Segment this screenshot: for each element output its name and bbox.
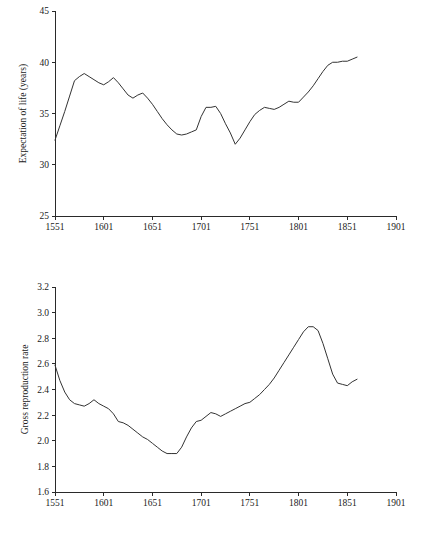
- x-tick-label: 1551: [46, 498, 65, 508]
- x-tick-label: 1801: [289, 498, 308, 508]
- x-tick-label: 1651: [143, 498, 162, 508]
- x-tick-label: 1651: [143, 222, 162, 232]
- x-tick-label: 1701: [192, 222, 211, 232]
- x-tick-label: 1901: [387, 498, 406, 508]
- y-tick-label: 1.6: [37, 487, 49, 497]
- y-axis-title: Gross reproduction rate: [20, 345, 30, 435]
- y-tick-label: 45: [40, 6, 50, 16]
- y-tick-label: 35: [40, 109, 50, 119]
- x-tick-label: 1851: [338, 222, 357, 232]
- x-tick-label: 1551: [46, 222, 65, 232]
- y-tick-label: 1.8: [37, 462, 49, 472]
- x-tick-label: 1851: [338, 498, 357, 508]
- y-tick-label: 3.0: [37, 308, 49, 318]
- x-tick-label: 1601: [94, 222, 113, 232]
- y-tick-label: 2.0: [37, 436, 49, 446]
- y-axis-title: Expectation of life (years): [18, 64, 29, 163]
- expectation-of-life-figure: 2530354045155116011651170117511801185119…: [0, 0, 421, 270]
- y-tick-label: 3.2: [37, 282, 49, 292]
- expectation-of-life-plot: 2530354045155116011651170117511801185119…: [0, 0, 421, 270]
- x-tick-label: 1751: [240, 222, 259, 232]
- gross-reproduction-rate-plot: 1.61.82.02.22.42.62.83.03.21551160116511…: [0, 270, 421, 539]
- x-tick-label: 1801: [289, 222, 308, 232]
- x-tick-label: 1901: [387, 222, 406, 232]
- y-tick-label: 2.6: [37, 359, 49, 369]
- y-tick-label: 30: [40, 160, 50, 170]
- y-tick-label: 40: [40, 58, 50, 68]
- series-line-0: [55, 57, 357, 144]
- x-tick-label: 1751: [240, 498, 259, 508]
- series-line-0: [55, 327, 357, 454]
- y-tick-label: 25: [40, 211, 50, 221]
- y-tick-label: 2.4: [37, 385, 49, 395]
- y-tick-label: 2.8: [37, 334, 49, 344]
- x-tick-label: 1701: [192, 498, 211, 508]
- x-tick-label: 1601: [94, 498, 113, 508]
- y-tick-label: 2.2: [37, 411, 49, 421]
- gross-reproduction-rate-figure: 1.61.82.02.22.42.62.83.03.21551160116511…: [0, 270, 421, 539]
